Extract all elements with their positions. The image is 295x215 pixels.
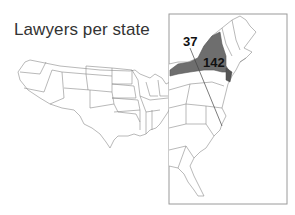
callout-37-label: 37 [183,34,197,49]
us-map [0,0,295,215]
us-outline [18,60,176,148]
callout-142-label: 142 [203,55,225,70]
